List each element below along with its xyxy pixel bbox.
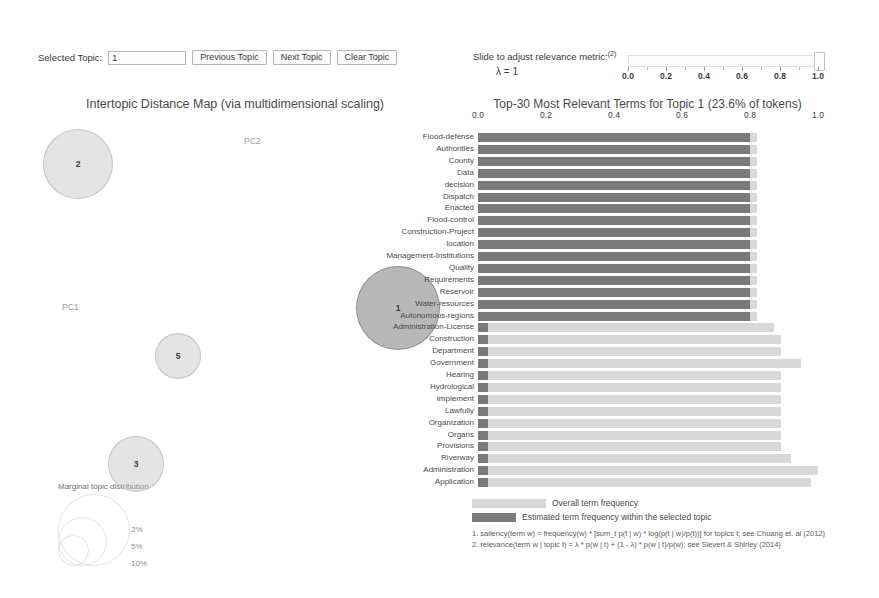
selected-topic-label: Selected Topic: bbox=[38, 52, 102, 63]
term-label[interactable]: Flood-control bbox=[427, 215, 474, 225]
bar-topic-frequency bbox=[478, 466, 488, 475]
barchart-row[interactable]: Flood-defense bbox=[478, 133, 818, 142]
legend-swatch-overall bbox=[472, 499, 546, 508]
term-label[interactable]: Data bbox=[457, 168, 474, 178]
bar-topic-frequency bbox=[478, 300, 750, 309]
bar-overall-frequency bbox=[478, 371, 781, 380]
term-label[interactable]: Construction-Project bbox=[402, 227, 474, 237]
bar-topic-frequency bbox=[478, 276, 750, 285]
term-label[interactable]: Enacted bbox=[445, 203, 474, 213]
barchart-row[interactable]: Construction-Project bbox=[478, 228, 818, 237]
legend-row-topic: Estimated term frequency within the sele… bbox=[472, 510, 832, 524]
term-label[interactable]: Lawfully bbox=[445, 406, 474, 416]
bar-topic-frequency bbox=[478, 371, 488, 380]
barchart-row[interactable]: Flood-control bbox=[478, 216, 818, 225]
term-label[interactable]: location bbox=[446, 239, 474, 249]
barchart-row[interactable]: Hearing bbox=[478, 371, 818, 380]
x-axis-tick-label: 0.4 bbox=[608, 110, 620, 120]
previous-topic-button[interactable]: Previous Topic bbox=[192, 50, 266, 65]
clear-topic-button[interactable]: Clear Topic bbox=[337, 50, 398, 65]
slider-tick-label: 0.2 bbox=[660, 71, 672, 81]
barchart-row[interactable]: Dispatch bbox=[478, 193, 818, 202]
slider-tick-label: 0.4 bbox=[698, 71, 710, 81]
term-label[interactable]: Quality bbox=[449, 263, 474, 273]
barchart-row[interactable]: Organs bbox=[478, 431, 818, 440]
term-label[interactable]: Flood-defense bbox=[423, 132, 474, 142]
bar-overall-frequency bbox=[478, 454, 791, 463]
relevance-slider-title-text: Slide to adjust relevance metric: bbox=[473, 51, 608, 62]
term-label[interactable]: Department bbox=[432, 346, 474, 356]
term-label[interactable]: Implement bbox=[437, 394, 474, 404]
barchart-row[interactable]: Application bbox=[478, 478, 818, 487]
barchart-row[interactable]: Water-resources bbox=[478, 300, 818, 309]
topic-circle-5[interactable]: 5 bbox=[155, 333, 201, 379]
intertopic-distance-map[interactable]: PC2 PC1 Marginal topic distribution 2% 5… bbox=[36, 112, 436, 572]
relevance-slider-title: Slide to adjust relevance metric:(2) bbox=[473, 50, 616, 62]
barchart-row[interactable]: Administration-License bbox=[478, 323, 818, 332]
bar-overall-frequency bbox=[478, 359, 801, 368]
term-label[interactable]: Reservoir bbox=[440, 287, 474, 297]
term-label[interactable]: Dispatch bbox=[443, 192, 474, 202]
term-label[interactable]: Organs bbox=[448, 430, 474, 440]
barchart-row[interactable]: Riverway bbox=[478, 454, 818, 463]
term-label[interactable]: Administration bbox=[423, 465, 474, 475]
selected-topic-input[interactable] bbox=[108, 51, 186, 65]
barchart-plot-area[interactable]: Flood-defenseAuthoritiesCountyDatadecisi… bbox=[478, 133, 818, 491]
barchart-row[interactable]: Lawfully bbox=[478, 407, 818, 416]
bar-topic-frequency bbox=[478, 383, 488, 392]
bar-overall-frequency bbox=[478, 407, 781, 416]
bar-topic-frequency bbox=[478, 133, 750, 142]
bar-overall-frequency bbox=[478, 347, 781, 356]
term-label[interactable]: Hydrological bbox=[430, 382, 474, 392]
barchart-row[interactable]: County bbox=[478, 157, 818, 166]
barchart-row[interactable]: Enacted bbox=[478, 204, 818, 213]
term-label[interactable]: Organization bbox=[429, 418, 474, 428]
barchart-row[interactable]: Reservoir bbox=[478, 288, 818, 297]
term-label[interactable]: Government bbox=[430, 358, 474, 368]
term-label[interactable]: Provisions bbox=[437, 441, 474, 451]
term-label[interactable]: Administration-License bbox=[393, 322, 474, 332]
term-label[interactable]: Hearing bbox=[446, 370, 474, 380]
slider-tick-labels: 0.00.20.40.60.81.0 bbox=[628, 71, 818, 83]
barchart-row[interactable]: Implement bbox=[478, 395, 818, 404]
footnote-relevance: 2. relevance(term w | topic t) = λ * p(w… bbox=[472, 539, 872, 550]
term-label[interactable]: Construction bbox=[429, 334, 474, 344]
barchart-row[interactable]: Requirements bbox=[478, 276, 818, 285]
barchart-row[interactable]: Department bbox=[478, 347, 818, 356]
barchart-row[interactable]: Administration bbox=[478, 466, 818, 475]
term-label[interactable]: County bbox=[449, 156, 474, 166]
barchart-row[interactable]: Autonomous-regions bbox=[478, 312, 818, 321]
topic-circle-3[interactable]: 3 bbox=[108, 436, 164, 492]
term-label[interactable]: Application bbox=[435, 477, 474, 487]
size-legend-ring-2 bbox=[58, 535, 89, 566]
barchart-row[interactable]: Provisions bbox=[478, 442, 818, 451]
topic-circle-2[interactable]: 2 bbox=[43, 129, 113, 199]
barchart-row[interactable]: Data bbox=[478, 169, 818, 178]
barchart-row[interactable]: Authorities bbox=[478, 145, 818, 154]
slider-tick bbox=[761, 67, 762, 70]
next-topic-button[interactable]: Next Topic bbox=[273, 50, 331, 65]
barchart-row[interactable]: location bbox=[478, 240, 818, 249]
barchart-row[interactable]: Hydrological bbox=[478, 383, 818, 392]
bar-overall-frequency bbox=[478, 431, 781, 440]
term-label[interactable]: Authorities bbox=[436, 144, 474, 154]
term-label[interactable]: decision bbox=[445, 180, 474, 190]
slider-tick-label: 0.6 bbox=[736, 71, 748, 81]
barchart-row[interactable]: Quality bbox=[478, 264, 818, 273]
term-label[interactable]: Requirements bbox=[424, 275, 474, 285]
barchart-row[interactable]: Government bbox=[478, 359, 818, 368]
bar-topic-frequency bbox=[478, 312, 750, 321]
barchart-row[interactable]: Management-Institutions bbox=[478, 252, 818, 261]
term-label[interactable]: Management-Institutions bbox=[386, 251, 474, 261]
pyldavis-page: Selected Topic: Previous Topic Next Topi… bbox=[0, 0, 879, 598]
bar-topic-frequency bbox=[478, 478, 488, 487]
term-label[interactable]: Water-resources bbox=[415, 299, 474, 309]
slider-track[interactable] bbox=[628, 55, 818, 67]
barchart-row[interactable]: decision bbox=[478, 181, 818, 190]
barchart-row[interactable]: Organization bbox=[478, 419, 818, 428]
term-frequency-barchart: 0.00.20.40.60.81.0 Flood-defenseAuthorit… bbox=[470, 110, 828, 485]
barchart-row[interactable]: Construction bbox=[478, 335, 818, 344]
lambda-slider[interactable]: 0.00.20.40.60.81.0 bbox=[628, 50, 823, 86]
term-label[interactable]: Riverway bbox=[441, 453, 474, 463]
term-label[interactable]: Autonomous-regions bbox=[400, 311, 474, 321]
